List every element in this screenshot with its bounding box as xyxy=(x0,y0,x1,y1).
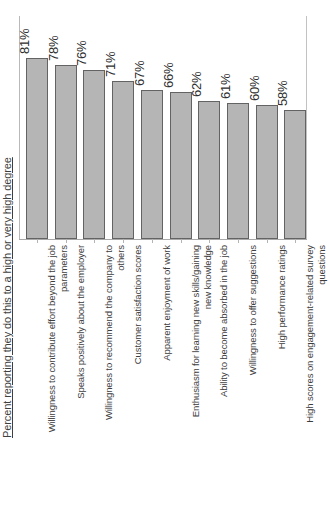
bar-value-label: 66% xyxy=(162,63,175,88)
bar-slot: 67% xyxy=(138,16,167,239)
bar-value-label: 58% xyxy=(276,81,289,106)
x-axis-tick xyxy=(295,239,296,243)
bar-slot: 62% xyxy=(195,16,224,239)
bar-slot: 60% xyxy=(253,16,282,239)
x-axis-tick xyxy=(267,239,268,243)
category-label-slot: Ability to become absorbed in the job xyxy=(195,245,224,525)
category-label-slot: Customer satisfaction scores xyxy=(109,245,138,525)
plot-area: 81%78%76%71%67%66%62%61%60%58% xyxy=(19,16,307,240)
bar[interactable] xyxy=(227,103,249,239)
y-axis-title-container: Percent reporting they do this to a high… xyxy=(0,0,18,440)
x-axis-tick xyxy=(181,239,182,243)
bar-value-label: 61% xyxy=(219,74,232,99)
x-axis-tick xyxy=(66,239,67,243)
bar-value-label: 67% xyxy=(133,61,146,86)
bar[interactable] xyxy=(198,101,220,239)
y-axis-title: Percent reporting they do this to a high… xyxy=(0,0,16,438)
bar-slot: 66% xyxy=(167,16,196,239)
bar-slot: 61% xyxy=(224,16,253,239)
bar-value-label: 78% xyxy=(47,36,60,61)
bar[interactable] xyxy=(256,105,278,239)
bar[interactable] xyxy=(55,65,77,239)
bar[interactable] xyxy=(141,90,163,239)
bar-value-label: 71% xyxy=(104,52,117,77)
bar[interactable] xyxy=(83,70,105,239)
bar-value-label: 76% xyxy=(75,41,88,66)
bar-value-label: 62% xyxy=(190,72,203,97)
bar[interactable] xyxy=(284,110,306,239)
x-axis-tick xyxy=(209,239,210,243)
category-label: High scores on engagement-related survey… xyxy=(304,245,330,517)
category-label-slot: Speaks positively about the employer xyxy=(52,245,81,525)
category-label-slot: Willingness to offer suggestions xyxy=(224,245,253,525)
category-label-slot: High scores on engagement-related survey… xyxy=(281,245,310,525)
category-label-slot: Willingness to contribute effort beyond … xyxy=(23,245,52,525)
x-axis-tick xyxy=(123,239,124,243)
bar-value-label: 81% xyxy=(18,29,31,54)
category-label-slot: Enthusiasm for learning new skills/gaini… xyxy=(167,245,196,525)
bar-slot: 71% xyxy=(109,16,138,239)
bar[interactable] xyxy=(26,58,48,239)
bar-slot: 76% xyxy=(80,16,109,239)
category-label-slot: Apparent enjoyment of work xyxy=(138,245,167,525)
bar[interactable] xyxy=(112,81,134,239)
category-label-slot: Willingness to recommend the company to … xyxy=(80,245,109,525)
x-axis-tick xyxy=(152,239,153,243)
bar[interactable] xyxy=(170,92,192,239)
category-label-slot: High performance ratings xyxy=(253,245,282,525)
x-axis-tick xyxy=(94,239,95,243)
x-axis-tick xyxy=(238,239,239,243)
bar-value-label: 60% xyxy=(248,76,261,101)
bar-slot: 58% xyxy=(281,16,310,239)
x-axis-category-labels: Willingness to contribute effort beyond … xyxy=(19,245,307,531)
bars-container: 81%78%76%71%67%66%62%61%60%58% xyxy=(19,16,307,240)
x-axis-tick xyxy=(37,239,38,243)
